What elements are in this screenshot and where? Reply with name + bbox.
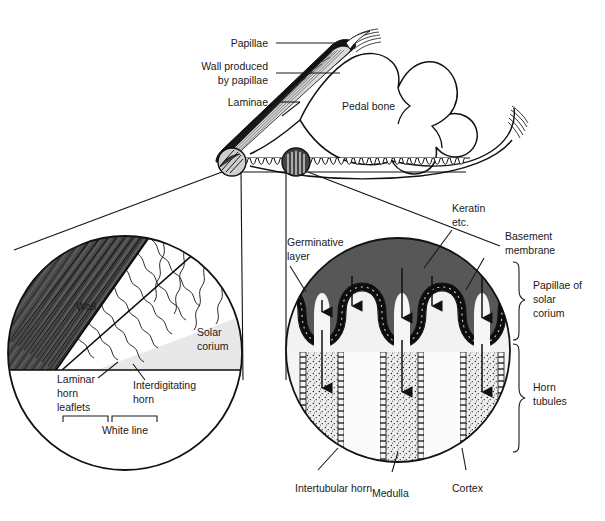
label-medulla: Medulla	[372, 487, 409, 499]
label-basement-membrane-line1: Basement	[505, 230, 552, 242]
label-papillae-solar-corium-line2: solar	[533, 293, 556, 305]
label-germinative-layer-line2: layer	[287, 250, 310, 262]
figure-canvas: Papillae Wall produced by papillae Lamin…	[0, 0, 605, 521]
label-wall-produced-line2: by papillae	[218, 74, 268, 86]
label-laminar-horn-leaflets-line2: horn	[57, 387, 78, 399]
label-cortex: Cortex	[452, 482, 484, 494]
label-laminar-horn-leaflets-line3: leaflets	[57, 401, 90, 413]
label-germinative-layer-line1: Germinative	[287, 236, 344, 248]
magnifier-marker-horn-tubules[interactable]	[282, 148, 310, 176]
magnifier-marker-white-line[interactable]	[218, 148, 246, 176]
label-interdigitating-horn-line2: horn	[133, 393, 154, 405]
label-intertubular-horn: Intertubular horn	[295, 482, 372, 494]
label-laminae: Laminae	[228, 96, 268, 108]
label-solar-corium-line2: corium	[197, 340, 229, 352]
label-wall: Wall	[76, 300, 96, 312]
left-inset-white-line: Wall Solar corium Laminar horn leaflets …	[8, 236, 242, 470]
label-laminar-horn-leaflets-line1: Laminar	[57, 373, 95, 385]
label-wall-produced-line1: Wall produced	[201, 60, 268, 72]
label-interdigitating-horn-line1: Interdigitating	[133, 379, 196, 391]
label-papillae-solar-corium-line3: corium	[533, 307, 565, 319]
label-solar-corium-line1: Solar	[197, 326, 222, 338]
label-papillae-solar-corium-line1: Papillae of	[533, 279, 582, 291]
label-pedal-bone: Pedal bone	[342, 100, 395, 112]
anatomical-diagram: Papillae Wall produced by papillae Lamin…	[0, 0, 605, 521]
label-keratin-line1: Keratin	[452, 202, 485, 214]
label-keratin-line2: etc.	[452, 216, 469, 228]
label-white-line: White line	[102, 424, 148, 436]
label-papillae: Papillae	[231, 37, 269, 49]
label-horn-tubules-line2: tubules	[533, 395, 567, 407]
label-horn-tubules-line1: Horn	[533, 381, 556, 393]
label-basement-membrane-line2: membrane	[505, 244, 555, 256]
